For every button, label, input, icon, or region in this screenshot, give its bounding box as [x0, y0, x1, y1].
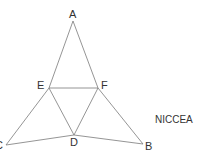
- vertex-label-e: E: [37, 79, 44, 91]
- edge-d-b: [74, 135, 143, 144]
- edge-f-d: [74, 88, 98, 135]
- vertex-label-b: B: [145, 140, 152, 152]
- vertex-label-d: D: [70, 136, 78, 148]
- edge-f-b: [98, 88, 143, 144]
- edge-a-e: [49, 21, 73, 88]
- source-label: NICCEA: [155, 114, 193, 125]
- edge-e-d: [49, 88, 74, 135]
- vertex-label-f: F: [101, 79, 108, 91]
- geometry-diagram: A E F C D B NICCEA: [0, 0, 207, 165]
- edge-e-c: [6, 88, 49, 145]
- edge-a-f: [73, 21, 98, 88]
- vertex-label-a: A: [69, 8, 77, 20]
- edge-c-d: [6, 135, 74, 145]
- vertex-label-c: C: [0, 139, 3, 151]
